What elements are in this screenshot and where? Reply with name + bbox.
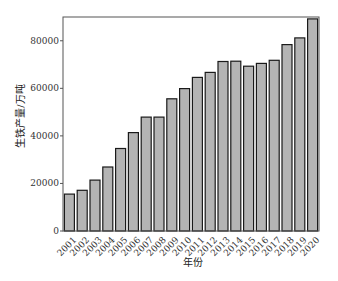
bar-2002 — [77, 190, 87, 231]
bar-2007 — [141, 117, 151, 231]
bar-2006 — [128, 133, 138, 231]
bar-2003 — [90, 180, 100, 231]
bar-2005 — [116, 149, 126, 232]
y-axis-title: 生铁产量/万吨 — [14, 84, 26, 147]
bar-2001 — [64, 194, 74, 231]
bar-chart: 020000400006000080000 200120022003200420… — [0, 0, 338, 281]
bar-2017 — [269, 60, 279, 231]
bar-2008 — [154, 117, 164, 231]
bar-2012 — [205, 72, 215, 231]
bar-2011 — [192, 77, 202, 231]
bar-2013 — [218, 62, 228, 232]
bars-group — [64, 19, 317, 231]
x-axis-title: 年份 — [183, 256, 203, 268]
y-tick-label: 20000 — [30, 178, 59, 188]
plot-frame — [63, 17, 319, 231]
bar-2004 — [103, 167, 113, 231]
bar-2015 — [244, 66, 254, 231]
bar-2010 — [180, 89, 190, 231]
bar-2018 — [282, 45, 292, 231]
y-tick-label: 60000 — [30, 83, 59, 93]
bar-2014 — [231, 61, 241, 231]
bar-2016 — [256, 63, 266, 231]
x-axis-ticks: 2001200220032004200520062007200820092010… — [55, 235, 322, 258]
bar-2019 — [295, 38, 305, 231]
y-tick-label: 40000 — [30, 131, 59, 141]
y-axis-ticks: 020000400006000080000 — [30, 36, 63, 236]
y-tick-label: 0 — [53, 226, 59, 236]
y-tick-label: 80000 — [30, 36, 59, 46]
bar-2020 — [308, 19, 318, 231]
bar-2009 — [167, 99, 177, 231]
